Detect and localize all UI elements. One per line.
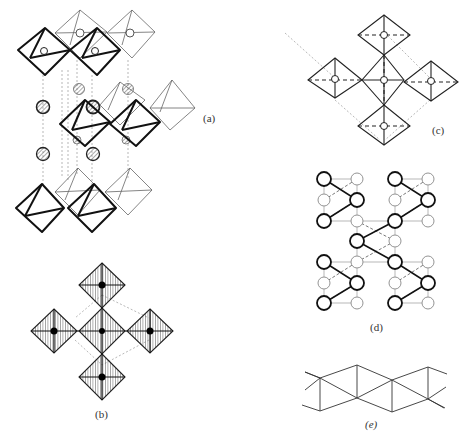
panel-label-a: (a)	[203, 112, 216, 125]
panel-d-diagram	[317, 172, 435, 310]
panel-a-diagram	[16, 10, 195, 232]
interlayer-cations	[37, 84, 134, 161]
cation-open-icon	[76, 29, 84, 37]
cation-open-icon	[92, 48, 99, 55]
panel-label-d: (d)	[370, 321, 383, 334]
octahedra-bottom-back	[55, 168, 152, 215]
dashed-links	[324, 179, 428, 303]
panel-label-c: (c)	[432, 124, 445, 137]
cation-open-icon	[41, 48, 48, 55]
octahedra-mid-back	[100, 80, 195, 130]
bold-links	[324, 179, 428, 303]
cation-open-icon	[126, 29, 134, 37]
panel-b-diagram	[31, 263, 173, 400]
panel-label-b: (b)	[95, 408, 108, 421]
dotted-guides	[43, 60, 128, 185]
panel-e-diagram	[302, 365, 447, 412]
panel-label-e: (e)	[365, 418, 378, 431]
octahedra-top-front	[18, 28, 120, 75]
light-links	[324, 179, 428, 303]
figure-canvas: (a) (b)	[0, 0, 468, 435]
